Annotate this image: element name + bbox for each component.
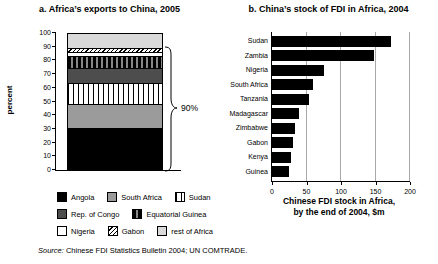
y-tick-mark: [52, 169, 56, 170]
panel-a-plot-area: 0102030405060708090100: [55, 33, 181, 171]
rep-of-congo-swatch-icon: [57, 209, 67, 219]
category-label: Gabon: [217, 139, 268, 147]
panel-a-title: a. Africa’s exports to China, 2005: [0, 4, 219, 14]
y-tick-label: 80: [33, 56, 51, 64]
x-tick-label: 50: [303, 188, 311, 195]
ninety-percent-brace: [164, 46, 179, 172]
south-africa-swatch-icon: [107, 192, 117, 202]
y-tick-label: 90: [33, 43, 51, 51]
x-tick-label: 200: [404, 188, 416, 195]
legend-row: NigeriaGabonrest of Africa: [57, 226, 287, 236]
source-label: Source:: [38, 246, 64, 255]
legend-label: Rep. of Congo: [71, 210, 119, 219]
y-tick-mark: [52, 114, 56, 115]
bar-south-africa: [272, 79, 313, 90]
gabon-swatch-icon: [108, 226, 118, 236]
category-label: Sudan: [217, 37, 268, 45]
y-tick-label: 100: [33, 29, 51, 37]
panel-b-x-axis-label-line2: by the end of 2004, $m: [239, 207, 438, 218]
x-tick-mark: [272, 182, 273, 185]
bar-row-gabon: Gabon: [272, 136, 410, 151]
y-tick-label: 50: [33, 98, 51, 106]
bar-row-kenya: Kenya: [272, 150, 410, 165]
category-label: Zimbabwe: [217, 124, 268, 132]
legend-item-sudan: Sudan: [175, 192, 211, 202]
bar-nigeria: [272, 65, 324, 76]
panel-b-plot-area: SudanZambiaNigeriaSouth AfricaTanzaniaMa…: [271, 32, 410, 182]
bar-guinea: [272, 166, 289, 177]
x-tick-mark: [341, 182, 342, 185]
panel-b-bars: SudanZambiaNigeriaSouth AfricaTanzaniaMa…: [272, 32, 410, 181]
stack-segment-sudan: [68, 83, 162, 105]
legend-item-gabon: Gabon: [108, 226, 145, 236]
y-tick-mark: [52, 155, 56, 156]
bar-row-tanzania: Tanzania: [272, 92, 410, 107]
y-tick-label: 60: [33, 84, 51, 92]
y-tick-mark: [52, 59, 56, 60]
bar-kenya: [272, 152, 291, 163]
bar-sudan: [272, 36, 391, 47]
bar-row-sudan: Sudan: [272, 34, 410, 49]
x-tick-mark: [410, 182, 411, 185]
ninety-percent-annotation: 90%: [181, 103, 198, 113]
stack-segment-equatorial-guinea: [68, 56, 162, 68]
y-tick-label: 0: [33, 166, 51, 174]
bar-row-zambia: Zambia: [272, 49, 410, 64]
panel-a-y-axis-label: percent: [5, 86, 14, 115]
legend-label: Gabon: [122, 227, 145, 236]
y-tick-label: 30: [33, 125, 51, 133]
legend-item-angola: Angola: [57, 192, 94, 202]
y-tick-mark: [52, 32, 56, 33]
x-tick-label: 100: [335, 188, 347, 195]
category-label: Madagascar: [217, 110, 268, 118]
category-label: Nigeria: [217, 66, 268, 74]
bar-zimbabwe: [272, 123, 295, 134]
stacked-bar: [67, 33, 163, 170]
category-label: Zambia: [217, 52, 268, 60]
rest-of-africa-swatch-icon: [157, 226, 167, 236]
stack-segment-rep-of-congo: [68, 68, 162, 83]
y-tick-label: 70: [33, 70, 51, 78]
legend-label: South Africa: [121, 193, 161, 202]
legend-label: Sudan: [189, 193, 211, 202]
legend-item-equatorial-guinea: Equatorial Guinea: [132, 209, 206, 219]
category-label: Tanzania: [217, 95, 268, 103]
x-tick-label: 150: [370, 188, 382, 195]
stack-segment-south-africa: [68, 104, 162, 128]
legend-item-south-africa: South Africa: [107, 192, 161, 202]
y-tick-label: 20: [33, 139, 51, 147]
legend-label: Angola: [71, 193, 94, 202]
source-note: Source: Chinese FDI Statistics Bulletin …: [38, 246, 247, 255]
source-text: Chinese FDI Statistics Bulletin 2004; UN…: [64, 246, 247, 255]
bar-gabon: [272, 137, 293, 148]
y-tick-mark: [52, 101, 56, 102]
panel-b-x-axis-label-line1: Chinese FDI stock in Africa,: [239, 196, 438, 207]
y-tick-label: 10: [33, 152, 51, 160]
stack-segment-rest-of-africa: [68, 34, 162, 48]
x-tick-label: 0: [270, 188, 274, 195]
legend-item-rep-of-congo: Rep. of Congo: [57, 209, 119, 219]
y-tick-mark: [52, 142, 56, 143]
stack-segment-angola: [68, 128, 162, 169]
y-tick-mark: [52, 87, 56, 88]
y-tick-label: 40: [33, 111, 51, 119]
nigeria-swatch-icon: [57, 226, 67, 236]
bar-tanzania: [272, 94, 309, 105]
figure-canvas: a. Africa’s exports to China, 2005 b. Ch…: [0, 0, 438, 264]
legend-label: Equatorial Guinea: [146, 210, 206, 219]
bar-zambia: [272, 50, 374, 61]
bar-row-madagascar: Madagascar: [272, 107, 410, 122]
legend-item-nigeria: Nigeria: [57, 226, 95, 236]
bar-row-zimbabwe: Zimbabwe: [272, 121, 410, 136]
category-label: Guinea: [217, 168, 268, 176]
bar-row-nigeria: Nigeria: [272, 63, 410, 78]
legend-label: rest of Africa: [171, 227, 213, 236]
angola-swatch-icon: [57, 192, 67, 202]
legend-item-rest-of-africa: rest of Africa: [157, 226, 213, 236]
panel-b-title: b. China’s stock of FDI in Africa, 2004: [219, 4, 438, 14]
bar-row-guinea: Guinea: [272, 165, 410, 180]
bar-madagascar: [272, 108, 299, 119]
panel-b-x-axis-label: Chinese FDI stock in Africa, by the end …: [239, 196, 438, 218]
sudan-swatch-icon: [175, 192, 185, 202]
legend-label: Nigeria: [71, 227, 95, 236]
